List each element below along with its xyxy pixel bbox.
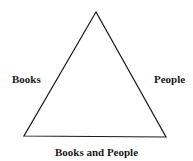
triangle-diagram: Books People Books and People (0, 0, 193, 161)
bottom-side-label: Books and People (0, 147, 193, 158)
right-side-label: People (154, 74, 185, 85)
triangle-outline (24, 12, 166, 137)
left-side-label: Books (12, 74, 41, 85)
